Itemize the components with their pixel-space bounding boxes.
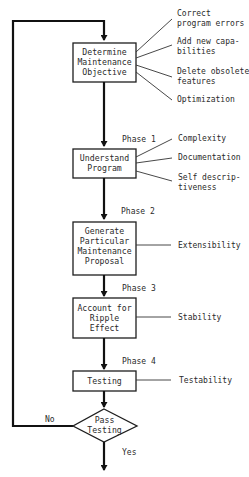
attr-connector (136, 171, 172, 181)
maintenance-flowchart: No Determine Maintenance Objective Corre… (0, 0, 249, 477)
attr-text: Testability (179, 376, 232, 385)
attr-text: Self descrip- (178, 173, 241, 182)
step-text: Particular (80, 236, 129, 246)
attr-text: Extensibility (178, 241, 241, 250)
attr-text: Stability (178, 313, 222, 322)
step-text: Ripple (90, 313, 120, 323)
attr-text: features (177, 77, 216, 86)
step-text: Testing (87, 376, 122, 386)
step-text: Determine (82, 47, 126, 57)
attr-text: bilities (177, 47, 216, 56)
attr-text: Correct (177, 9, 211, 18)
attr-connector (136, 158, 172, 163)
phase-label: Phase 4 (122, 357, 156, 366)
decision-text: Testing (87, 425, 122, 435)
step-text: Effect (90, 323, 120, 333)
phase-label: Phase 2 (121, 207, 155, 216)
attr-text: tiveness (178, 183, 217, 192)
attr-text: Complexity (178, 134, 226, 143)
step-text: Maintenance (77, 246, 131, 256)
step-text: Program (87, 163, 122, 173)
attr-text: Optimization (177, 95, 235, 104)
step-text: Proposal (85, 256, 125, 266)
attr-text: program errors (177, 19, 245, 28)
attr-text: Add new capa- (177, 37, 240, 46)
step-text: Objective (82, 67, 126, 77)
phase-label: Phase 3 (122, 284, 156, 293)
step-text: Maintenance (77, 57, 131, 67)
attr-text: Delete obsolete (177, 67, 249, 76)
decision-text: Pass (95, 415, 115, 425)
yes-label: Yes (122, 448, 137, 457)
attr-connector (136, 65, 172, 77)
step-text: Understand (80, 153, 129, 163)
no-label: No (45, 415, 55, 424)
step-text: Account for (77, 303, 131, 313)
attr-text: Documentation (178, 153, 241, 162)
step-text: Generate (85, 226, 125, 236)
phase-label: Phase 1 (122, 135, 156, 144)
attr-connector (136, 72, 172, 100)
